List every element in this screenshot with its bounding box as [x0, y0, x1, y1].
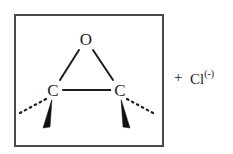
bond-oxygen-left-carbon: [60, 50, 79, 80]
plus-sign: +: [174, 70, 182, 85]
chloride-ion: Cl(-): [190, 70, 214, 87]
bond-left-carbon-wedge: [43, 99, 52, 128]
left-carbon-atom-label: C: [47, 81, 58, 100]
bond-right-carbon-wedge: [121, 99, 130, 128]
bond-oxygen-right-carbon: [93, 50, 113, 80]
oxygen-atom-label: O: [80, 30, 92, 49]
right-carbon-atom-label: C: [114, 81, 125, 100]
chemical-figure: O C C + Cl(-): [0, 0, 233, 154]
chloride-charge-label: (-): [204, 68, 214, 79]
bond-left-carbon-dashed: [20, 99, 46, 113]
chloride-symbol: Cl: [190, 71, 204, 87]
bond-right-carbon-dashed: [127, 99, 153, 113]
